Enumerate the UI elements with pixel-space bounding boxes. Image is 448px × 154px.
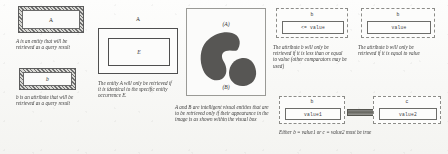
caption-comparator: The attribute b will only be retrieved i… <box>273 44 347 69</box>
visual-box: (A) (B) <box>186 8 266 96</box>
hatched-entity-box-inner: A <box>22 10 79 28</box>
disjunction-right-value: value2 <box>399 112 417 117</box>
disjunction-connector <box>347 109 374 116</box>
equality-expression: value <box>391 25 406 30</box>
figure-sheet: A A is an entity that will be retrieved … <box>0 0 448 154</box>
disjunction-right-value-box: value2 <box>379 108 437 120</box>
caption-attribute-b: b is an attribute that will be retrieved… <box>16 94 78 106</box>
disjunction-right-attribute: c <box>374 99 440 104</box>
hatched-attribute-box: b <box>19 68 76 90</box>
panel-visual-entities: (A) (B) A and B are intelligent visual e… <box>186 6 286 152</box>
outer-entity-box: A E <box>98 28 178 74</box>
caption-visual-entities: A and B are intelligent visual entities … <box>175 104 271 123</box>
inner-occurrence-label: E <box>137 49 140 55</box>
caption-entity-a: A is an entity that will be retrieved as… <box>16 38 78 50</box>
panel-entity-occurrence: A E The entity A will only be retrieved … <box>98 8 182 148</box>
hatched-attribute-box-inner: b <box>23 72 71 85</box>
comparator-expression: <= value <box>301 25 325 30</box>
visual-label-b: (B) <box>187 84 265 90</box>
caption-entity-occurrence: The entity A will only be retrieved if i… <box>98 80 172 99</box>
disjunction-left-attribute: b <box>280 99 344 104</box>
hatched-entity-box: A <box>18 6 84 33</box>
equality-attribute-name: b <box>362 12 434 17</box>
panel-entity-attribute: A A is an entity that will be retrieved … <box>14 6 94 148</box>
equality-attribute-box: b value <box>361 8 435 38</box>
attribute-label-b: b <box>46 76 49 82</box>
disjunction-left-value-box: value1 <box>285 108 341 120</box>
caption-disjunction: Either b = value1 or c = value2 must be … <box>279 129 445 135</box>
inner-occurrence-box: E <box>108 38 170 66</box>
disjunction-right-box: c value2 <box>373 96 441 124</box>
equality-value-box: value <box>367 21 431 34</box>
disjunction-left-value: value1 <box>304 112 322 117</box>
entity-label-a: A <box>49 17 53 23</box>
comparator-value-box: <= value <box>282 21 344 34</box>
caption-equality: The attribute b will only be retrieved i… <box>358 44 432 56</box>
panel-disjunction: b value1 c value2 Either b = value1 or c… <box>279 96 445 152</box>
comparator-attribute-name: b <box>277 12 347 17</box>
disjunction-left-box: b value1 <box>279 96 345 124</box>
comparator-attribute-box: b <= value <box>276 8 348 38</box>
outer-entity-label: A <box>99 16 177 22</box>
